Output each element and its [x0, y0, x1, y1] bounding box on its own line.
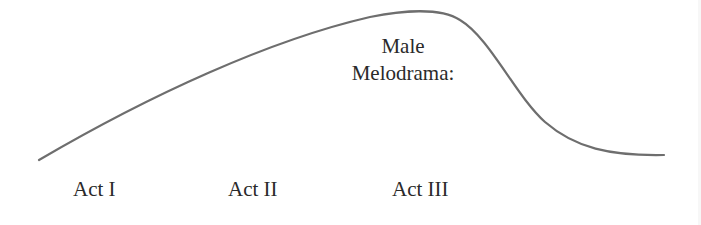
melodrama-diagram: Male Melodrama: Act I Act II Act III: [0, 0, 701, 225]
act-3-label: Act III: [392, 177, 449, 201]
act-2-label: Act II: [228, 177, 278, 201]
melodrama-annotation: Male Melodrama:: [345, 33, 461, 87]
act-1-label: Act I: [73, 177, 116, 201]
annotation-line-1: Male: [345, 33, 461, 60]
annotation-line-2: Melodrama:: [345, 60, 461, 87]
